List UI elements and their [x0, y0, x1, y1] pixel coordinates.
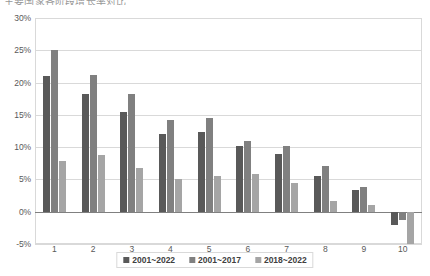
y-axis-tick-label: 25% — [14, 45, 31, 55]
y-axis-tick-label: 15% — [14, 110, 31, 120]
bar — [244, 141, 251, 212]
bar — [90, 75, 97, 212]
bar — [352, 190, 359, 211]
bar — [167, 120, 174, 212]
bar — [98, 155, 105, 212]
bar — [236, 146, 243, 211]
bar — [198, 132, 205, 211]
x-axis-tick-label: 2 — [91, 244, 96, 254]
legend-label: 2001~2022 — [132, 255, 175, 265]
chart-title: 主要国家各阶段增长率对比 — [4, 0, 304, 5]
bar — [59, 161, 66, 212]
y-axis-tick-label: 0% — [19, 207, 31, 217]
bar-group — [112, 18, 151, 244]
bar-group — [267, 18, 306, 244]
bar — [399, 212, 406, 220]
bar — [120, 112, 127, 212]
bar — [175, 179, 182, 212]
bar-group — [35, 18, 74, 244]
bar — [330, 201, 337, 212]
y-axis-tick-label: 5% — [19, 174, 31, 184]
legend-swatch-icon — [123, 257, 129, 263]
bar — [322, 166, 329, 212]
legend-swatch-icon — [189, 257, 195, 263]
y-axis-labels: 30%25%20%15%10%5%0%-5% — [0, 18, 31, 244]
bar — [291, 183, 298, 212]
bar-groups — [35, 18, 422, 244]
bar — [214, 176, 221, 212]
bar — [43, 76, 50, 212]
bar — [159, 134, 166, 212]
bar — [136, 168, 143, 212]
bar — [128, 94, 135, 212]
x-axis-tick-label: 9 — [362, 244, 367, 254]
legend-item[interactable]: 2001~2022 — [123, 255, 175, 265]
bar — [275, 154, 282, 211]
bar — [314, 176, 321, 212]
bar-chart: 主要国家各阶段增长率对比 30%25%20%15%10%5%0%-5% 1234… — [0, 0, 430, 276]
bar — [391, 212, 398, 225]
x-axis-tick-label: 8 — [323, 244, 328, 254]
bar-group — [345, 18, 384, 244]
bar — [360, 187, 367, 212]
bar-group — [190, 18, 229, 244]
bar — [82, 94, 89, 212]
x-axis-tick-label: 10 — [398, 244, 407, 254]
bar — [252, 174, 259, 212]
legend-item[interactable]: 2018~2022 — [255, 255, 307, 265]
y-axis-tick-label: -5% — [16, 239, 31, 249]
bar-group — [383, 18, 422, 244]
bar-group — [306, 18, 345, 244]
legend-label: 2001~2017 — [198, 255, 241, 265]
bar — [407, 212, 414, 244]
bar — [368, 205, 375, 212]
legend-item[interactable]: 2001~2017 — [189, 255, 241, 265]
y-axis-tick-label: 20% — [14, 78, 31, 88]
bar-group — [74, 18, 113, 244]
legend-swatch-icon — [255, 257, 261, 263]
bar — [206, 118, 213, 212]
bar-group — [229, 18, 268, 244]
x-axis-tick-label: 1 — [52, 244, 57, 254]
bar-group — [151, 18, 190, 244]
y-axis-tick-label: 10% — [14, 142, 31, 152]
bar — [51, 50, 58, 211]
y-axis-tick-label: 30% — [14, 13, 31, 23]
bar — [283, 146, 290, 212]
chart-legend: 2001~20222001~20172018~2022 — [116, 252, 313, 268]
legend-label: 2018~2022 — [264, 255, 307, 265]
